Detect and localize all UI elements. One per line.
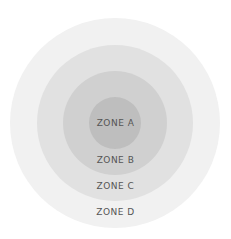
zone-d-label: ZONE D <box>0 207 231 217</box>
zone-a-label: ZONE A <box>0 118 231 128</box>
zone-b-label: ZONE B <box>0 155 231 165</box>
zone-c-label: ZONE C <box>0 181 231 191</box>
